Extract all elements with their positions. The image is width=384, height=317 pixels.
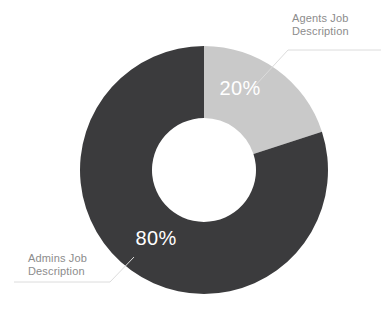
donut-chart-canvas: 20% 80% Agents Job Description Admins Jo… — [0, 0, 384, 317]
slice-value-admins: 80% — [135, 227, 176, 249]
slice-value-agents: 20% — [219, 77, 260, 99]
callout-admins: Admins Job Description — [28, 252, 87, 277]
callout-admins-line2: Description — [28, 265, 85, 277]
donut-slices — [80, 46, 328, 294]
callout-agents-line1: Agents Job — [292, 12, 349, 24]
donut-chart: 20% 80% Agents Job Description Admins Jo… — [0, 0, 384, 317]
callout-admins-line1: Admins Job — [28, 252, 87, 264]
callout-agents-line2: Description — [292, 25, 349, 37]
callout-agents: Agents Job Description — [292, 12, 349, 37]
